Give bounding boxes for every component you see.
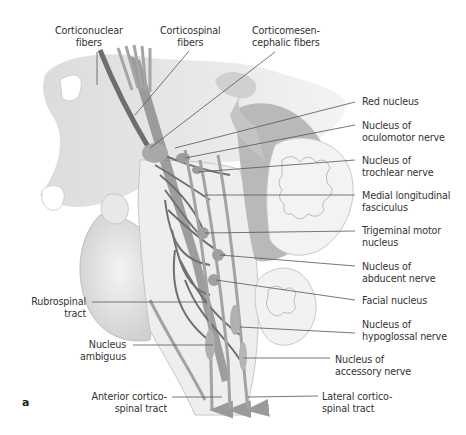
accessory-nucleus-shape	[239, 342, 247, 370]
medulla-shape	[138, 160, 258, 415]
label-corticonuclear-fibers: Corticonuclear fibers	[55, 25, 123, 49]
red-nucleus-shape	[142, 143, 168, 163]
hypoglossal-nucleus-shape	[230, 305, 240, 335]
label-corticomesencephalic-fibers: Corticomesen- cephalic fibers	[252, 25, 320, 49]
label-lateral-corticospinal-tract: Lateral cortico- spinal tract	[322, 391, 392, 415]
label-facial-nucleus: Facial nucleus	[362, 295, 427, 307]
panel-letter: a	[22, 396, 29, 409]
label-trochlear-nucleus: Nucleus of trochlear nerve	[362, 155, 433, 179]
label-oculomotor-nucleus: Nucleus of oculomotor nerve	[362, 120, 445, 144]
oculomotor-nucleus-shape	[176, 153, 190, 163]
label-accessory-nucleus: Nucleus of accessory nerve	[335, 354, 411, 378]
label-trigeminal-motor-nucleus: Trigeminal motor nucleus	[362, 225, 441, 249]
label-rubrospinal-tract: Rubrospinal tract	[26, 296, 86, 320]
label-abducent-nucleus: Nucleus of abducent nerve	[362, 261, 436, 285]
label-nucleus-ambiguus: Nucleus ambiguus	[66, 339, 126, 363]
label-red-nucleus: Red nucleus	[362, 96, 419, 108]
trochlear-nucleus-shape	[192, 166, 202, 174]
label-anterior-corticospinal-tract: Anterior cortico- spinal tract	[80, 391, 167, 415]
brainstem-pathways-figure: Corticonuclear fibers Corticospinal fibe…	[0, 0, 466, 435]
label-medial-longitudinal-fasciculus: Medial longitudinal fasciculus	[362, 190, 450, 214]
label-corticospinal-fibers: Corticospinal fibers	[160, 25, 221, 49]
label-hypoglossal-nucleus: Nucleus of hypoglossal nerve	[362, 319, 447, 343]
